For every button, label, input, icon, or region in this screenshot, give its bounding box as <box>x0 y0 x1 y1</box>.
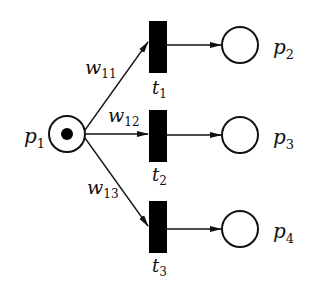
place-label-p3: p3 <box>273 125 294 152</box>
transition-label-t1: t1 <box>152 77 167 101</box>
petri-net-diagram: p1 t1 t2 t3 w11 w12 w13 p2 p3 p4 <box>0 0 310 289</box>
place-p3 <box>222 117 258 153</box>
place-label-p1: p1 <box>24 124 45 151</box>
token-icon <box>61 128 73 140</box>
place-label-p4: p4 <box>273 219 294 246</box>
place-label-p2: p2 <box>273 35 294 62</box>
weight-label-w11: w11 <box>85 56 117 81</box>
place-p4 <box>222 211 258 247</box>
transition-t2 <box>149 110 167 162</box>
place-p2 <box>222 27 258 63</box>
weight-label-w12: w12 <box>108 104 140 129</box>
transition-label-t2: t2 <box>152 164 167 188</box>
transition-t1 <box>149 21 167 73</box>
weight-label-w13: w13 <box>87 176 119 201</box>
transition-t3 <box>149 201 167 253</box>
transition-label-t3: t3 <box>152 255 167 279</box>
place-p1 <box>49 116 85 152</box>
